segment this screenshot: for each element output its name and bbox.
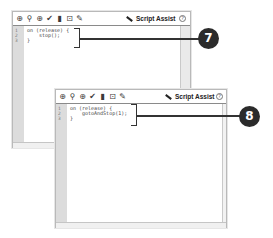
insert-target-path-icon[interactable]: ⊕ <box>35 14 44 24</box>
code-line: } <box>70 116 73 121</box>
find-icon[interactable]: ⚲ <box>68 92 77 102</box>
callout-badge-8: 8 <box>239 106 260 127</box>
check-syntax-icon[interactable]: ✔ <box>45 14 54 24</box>
add-statement-icon[interactable]: ⊕ <box>58 92 67 102</box>
callout-badge-7: 7 <box>198 28 219 49</box>
wand-icon <box>165 94 172 100</box>
callout-leader-line <box>137 115 241 117</box>
line-number: 3 <box>15 38 18 43</box>
find-icon[interactable]: ⚲ <box>25 14 34 24</box>
status-bar <box>56 222 226 228</box>
auto-format-icon[interactable]: ▮ <box>55 14 64 24</box>
code-line: stop(); <box>27 33 60 38</box>
script-assist-button[interactable]: Script Assist <box>165 93 215 100</box>
auto-format-icon[interactable]: ▮ <box>98 92 107 102</box>
script-assist-label: Script Assist <box>136 15 176 22</box>
debug-options-icon[interactable]: ✎ <box>118 92 127 102</box>
vertical-scrollbar[interactable] <box>222 104 226 222</box>
actions-panel-2: ⊕ ⚲ ⊕ ✔ ▮ ⊡ ✎ Script Assist ? 1 2 3 on (… <box>55 89 227 228</box>
script-assist-button[interactable]: Script Assist <box>126 15 176 22</box>
line-number-gutter: 1 2 3 <box>13 26 24 142</box>
insert-target-path-icon[interactable]: ⊕ <box>78 92 87 102</box>
line-number: 3 <box>58 116 61 121</box>
add-statement-icon[interactable]: ⊕ <box>15 14 24 24</box>
check-syntax-icon[interactable]: ✔ <box>88 92 97 102</box>
help-icon[interactable]: ? <box>216 93 223 100</box>
line-number-gutter: 1 2 3 <box>56 104 67 222</box>
callout-leader-line <box>80 38 201 40</box>
actions-toolbar: ⊕ ⚲ ⊕ ✔ ▮ ⊡ ✎ Script Assist ? <box>13 12 190 26</box>
script-assist-label: Script Assist <box>175 93 215 100</box>
actions-toolbar: ⊕ ⚲ ⊕ ✔ ▮ ⊡ ✎ Script Assist ? <box>56 90 226 104</box>
help-icon[interactable]: ? <box>179 15 186 22</box>
debug-options-icon[interactable]: ✎ <box>75 14 84 24</box>
code-line: } <box>27 38 30 43</box>
show-code-hint-icon[interactable]: ⊡ <box>108 92 117 102</box>
code-line: gotoAndStop(1); <box>70 111 127 116</box>
show-code-hint-icon[interactable]: ⊡ <box>65 14 74 24</box>
wand-icon <box>126 16 133 22</box>
script-editor[interactable]: 1 2 3 on (release) { gotoAndStop(1); } <box>56 104 226 222</box>
